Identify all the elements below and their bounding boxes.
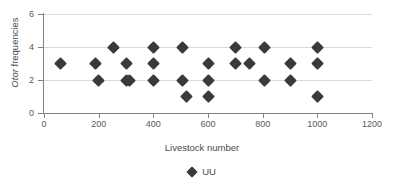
y-axis-title: Otor frequencies <box>9 3 20 103</box>
data-point <box>202 90 215 103</box>
data-point <box>311 57 324 70</box>
y-axis-tick <box>38 14 43 15</box>
legend-entry-label: UU <box>202 166 216 177</box>
x-axis-tick <box>153 113 154 118</box>
data-point <box>54 57 67 70</box>
x-axis-tick-label: 1200 <box>352 120 392 129</box>
x-axis-tick <box>99 113 100 118</box>
diamond-marker-icon <box>186 166 197 177</box>
data-point <box>202 74 215 87</box>
data-point <box>243 57 256 70</box>
y-axis-tick-label: 0 <box>8 109 34 118</box>
gridline <box>44 14 372 15</box>
data-point <box>229 41 242 54</box>
data-point <box>258 74 271 87</box>
data-point <box>147 74 160 87</box>
x-axis-tick-label: 800 <box>243 120 283 129</box>
data-point <box>311 41 324 54</box>
x-axis-tick-label: 600 <box>188 120 228 129</box>
y-axis-tick <box>38 113 43 114</box>
y-axis-tick <box>38 47 43 48</box>
data-point <box>176 41 189 54</box>
y-axis-tick <box>38 80 43 81</box>
scatter-chart: 0246 020040060080010001200 Livestock num… <box>0 0 404 188</box>
data-point <box>258 41 271 54</box>
x-axis-tick <box>263 113 264 118</box>
x-axis-tick-label: 1000 <box>297 120 337 129</box>
x-axis-tick <box>317 113 318 118</box>
data-point <box>92 74 105 87</box>
data-point <box>120 57 133 70</box>
x-axis-tick <box>44 113 45 118</box>
y-axis-line <box>43 13 44 114</box>
y-axis-title-rest: frequencies <box>9 17 20 69</box>
data-point <box>107 41 120 54</box>
data-point <box>311 90 324 103</box>
data-point <box>180 90 193 103</box>
data-point <box>147 41 160 54</box>
data-point <box>90 57 103 70</box>
data-point <box>284 57 297 70</box>
x-axis-tick <box>372 113 373 118</box>
x-axis-tick <box>208 113 209 118</box>
plot-area <box>44 14 372 113</box>
data-point <box>229 57 242 70</box>
chart-legend: UU <box>0 166 404 177</box>
x-axis-title: Livestock number <box>0 142 404 153</box>
x-axis-tick-label: 200 <box>79 120 119 129</box>
x-axis-tick-label: 400 <box>133 120 173 129</box>
data-point <box>202 57 215 70</box>
y-axis-title-italic: Otor <box>9 69 20 87</box>
x-axis-tick-label: 0 <box>24 120 64 129</box>
data-point <box>147 57 160 70</box>
data-point <box>176 74 189 87</box>
data-point <box>284 74 297 87</box>
